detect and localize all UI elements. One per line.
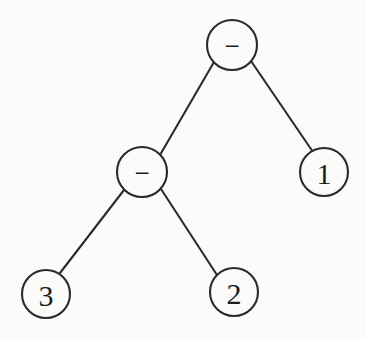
expression-tree-figure: − − 1 3 2 [0, 0, 366, 338]
edge-root-to-leaf-right [251, 61, 313, 152]
node-leaf-right[interactable]: 1 [300, 148, 348, 196]
node-leaf-left-label: 3 [39, 279, 54, 312]
node-leaf-middle[interactable]: 2 [210, 268, 258, 316]
edge-root-to-internal-left [160, 62, 214, 155]
node-internal-left-label: − [134, 158, 149, 188]
node-leaf-left[interactable]: 3 [22, 270, 70, 318]
tree-diagram-canvas: − − 1 3 2 [0, 0, 366, 338]
node-leaf-middle-label: 2 [227, 277, 242, 310]
edge-internal-left-to-leaf-left [60, 190, 124, 273]
edge-internal-left-to-leaf-middle [161, 189, 217, 275]
node-root-label: − [224, 31, 239, 61]
node-root[interactable]: − [207, 20, 257, 70]
edge-group [60, 61, 313, 275]
node-leaf-right-label: 1 [317, 157, 332, 190]
node-internal-left[interactable]: − [117, 147, 167, 197]
